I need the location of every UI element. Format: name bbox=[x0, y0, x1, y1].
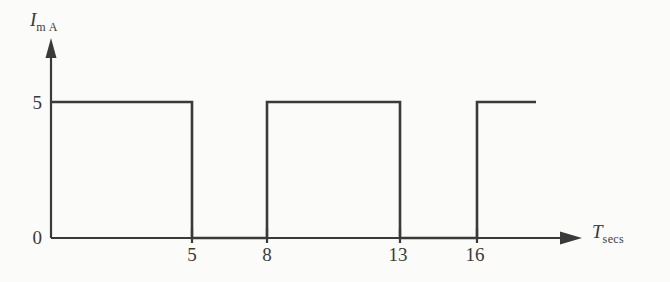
figure-container: Im A Tsecs 5 0 5 8 13 16 bbox=[0, 0, 670, 282]
waveform-trace bbox=[51, 102, 536, 238]
x-tick-label-5: 5 bbox=[177, 245, 207, 264]
x-tick-label-8: 8 bbox=[252, 245, 282, 264]
x-axis-symbol: T bbox=[592, 221, 603, 242]
x-axis bbox=[51, 232, 582, 245]
y-axis bbox=[46, 38, 57, 238]
square-wave-plot bbox=[0, 0, 670, 282]
x-axis-label: Tsecs bbox=[592, 222, 624, 245]
y-tick-label-0: 0 bbox=[18, 228, 42, 247]
x-axis-unit: secs bbox=[603, 232, 625, 246]
x-axis-ticks bbox=[192, 228, 477, 243]
y-tick-label-5: 5 bbox=[18, 93, 42, 112]
y-axis-unit: m A bbox=[36, 20, 58, 34]
x-tick-label-13: 13 bbox=[383, 245, 413, 264]
x-tick-label-16: 16 bbox=[460, 245, 490, 264]
y-axis-label: Im A bbox=[30, 10, 58, 33]
